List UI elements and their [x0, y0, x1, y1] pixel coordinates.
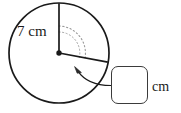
center-dot-icon — [56, 50, 61, 55]
radius-label: 7 cm — [17, 24, 47, 39]
figure-container: 7 cm cm — [0, 0, 181, 113]
angle-pointer-arrow-icon — [75, 67, 82, 74]
unit-label: cm — [152, 80, 169, 94]
slanted-radius-line — [59, 53, 108, 62]
geometry-figure — [0, 0, 181, 113]
answer-input[interactable] — [111, 66, 148, 104]
callout-leader-line — [78, 71, 111, 86]
